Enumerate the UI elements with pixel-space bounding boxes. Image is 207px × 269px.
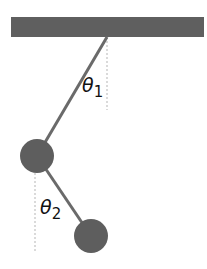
angle-label-theta-2: θ2 — [40, 196, 61, 223]
angle-label-theta-1: θ1 — [82, 74, 103, 101]
ceiling-bar — [11, 17, 204, 37]
pendulum-bob-1 — [20, 139, 54, 173]
double-pendulum-diagram: θ1 θ2 — [0, 0, 207, 269]
pendulum-bob-2 — [74, 219, 108, 253]
